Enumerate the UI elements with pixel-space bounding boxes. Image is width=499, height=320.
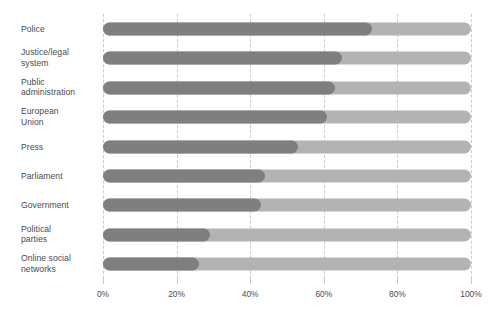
- bar-row: [103, 199, 471, 212]
- bar-segment-value: [103, 140, 298, 153]
- bar-segment-value: [103, 111, 327, 124]
- bar-row: [103, 228, 471, 241]
- category-label-column: PoliceJustice/legal systemPublic adminis…: [0, 0, 100, 320]
- bar-segment-value: [103, 81, 335, 94]
- x-tick-label: 80%: [389, 289, 406, 299]
- x-tick-label: 60%: [315, 289, 332, 299]
- bar-segment-value: [103, 199, 261, 212]
- category-label: Political parties: [21, 224, 103, 245]
- x-tick-mark: [177, 279, 178, 284]
- x-tick-label: 0%: [97, 289, 109, 299]
- category-label: Justice/legal system: [21, 48, 103, 69]
- category-label: Public administration: [21, 77, 103, 98]
- x-tick-label: 20%: [168, 289, 185, 299]
- x-tick-mark: [324, 279, 325, 284]
- bar-row: [103, 111, 471, 124]
- bar-row: [103, 22, 471, 35]
- bar-row: [103, 81, 471, 94]
- bar-segment-value: [103, 52, 342, 65]
- bar-row: [103, 258, 471, 271]
- bar-segment-value: [103, 22, 372, 35]
- bar-row: [103, 52, 471, 65]
- bar-segment-value: [103, 169, 265, 182]
- gridline-100pct: [471, 14, 472, 279]
- category-label: Online social networks: [21, 254, 103, 275]
- category-label: European Union: [21, 106, 103, 127]
- category-label: Press: [21, 141, 103, 152]
- bar-segment-value: [103, 228, 210, 241]
- x-tick-mark: [471, 279, 472, 284]
- x-axis: 0%20%40%60%80%100%: [103, 279, 471, 309]
- x-tick-mark: [103, 279, 104, 284]
- x-tick-label: 40%: [242, 289, 259, 299]
- category-label: Police: [21, 23, 103, 34]
- bar-row: [103, 140, 471, 153]
- category-label: Government: [21, 200, 103, 211]
- bar-row: [103, 169, 471, 182]
- bar-chart: PoliceJustice/legal systemPublic adminis…: [0, 0, 499, 320]
- plot-area: [103, 14, 471, 279]
- bar-segment-value: [103, 258, 199, 271]
- category-label: Parliament: [21, 171, 103, 182]
- x-tick-label: 100%: [460, 289, 481, 299]
- x-tick-mark: [397, 279, 398, 284]
- x-tick-mark: [250, 279, 251, 284]
